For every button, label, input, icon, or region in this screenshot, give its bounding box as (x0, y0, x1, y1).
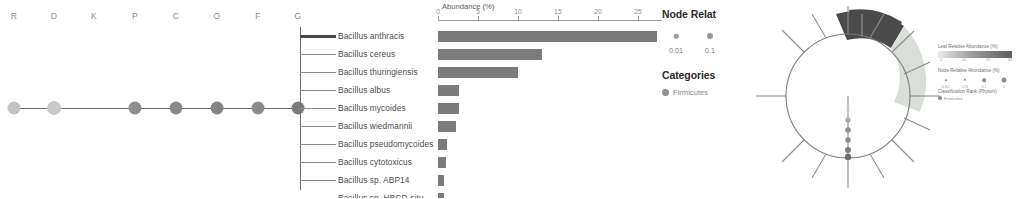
abundance-bar-panel: Abundance (%) 0 5 10 15 20 25 Bacillus a… (300, 0, 660, 198)
rank-legend-item[interactable]: Firmicutes (938, 96, 1022, 101)
node-size-label: 0.1 (982, 85, 987, 89)
rank-label-f: F (255, 9, 260, 23)
internal-node (845, 137, 851, 143)
abundance-bar[interactable] (438, 121, 456, 132)
rank-header-row: R D K P C O F G (0, 9, 300, 23)
leaf-row[interactable]: Bacillus albus (300, 81, 660, 99)
radial-branch (782, 30, 804, 52)
colorbar-tick-label: 10 (962, 58, 966, 62)
leaf-species-label: Bacillus cereus (338, 45, 395, 63)
categories-title: Categories (662, 69, 758, 81)
tree-node[interactable] (170, 102, 183, 115)
leaf-species-label: Bacillus sp. ABP14 (338, 171, 409, 189)
leaf-row[interactable]: Bacillus anthracis (300, 27, 660, 45)
leaf-branch (300, 144, 336, 145)
rank-label-k: K (91, 9, 97, 23)
abundance-bar[interactable] (438, 103, 459, 114)
internal-node-chain (845, 96, 851, 160)
abundance-bar[interactable] (438, 175, 444, 186)
axis-title: Abundance (%) (442, 2, 494, 11)
radial-branch (904, 118, 930, 130)
rank-label: Firmicutes (944, 96, 962, 101)
axis-tick-label: 10 (514, 8, 521, 15)
tree-node[interactable] (252, 102, 265, 115)
colorbar-tick-label: 0 (940, 58, 942, 62)
axis-tick-label: 0 (436, 8, 440, 15)
abundance-bar[interactable] (438, 31, 657, 42)
outer-arc-group (836, 9, 926, 112)
internal-node (846, 108, 850, 112)
tree-node[interactable] (211, 102, 224, 115)
leaf-abundance-legend-title: Leaf Relative Abundance (%) (938, 44, 1022, 49)
internal-node (845, 127, 851, 133)
node-size-dot (945, 79, 947, 81)
rank-swatch-icon (938, 96, 942, 100)
category-swatch-icon (662, 89, 669, 96)
node-size-label: 0.01 (669, 46, 683, 55)
node-relative-abundance-title: Node Relat (662, 8, 758, 20)
abundance-bar[interactable] (438, 67, 518, 78)
internal-node (845, 154, 851, 160)
leaf-branch (300, 90, 336, 91)
taxonomic-ladder-panel: R D K P C O F G (0, 0, 300, 198)
leaf-branch (300, 72, 336, 73)
abundance-bar[interactable] (438, 193, 444, 199)
axis-tick-label: 5 (476, 8, 480, 15)
node-size-dot (1002, 78, 1007, 83)
radial-branch (812, 14, 826, 38)
leaf-species-label: Bacillus thuringiensis (338, 63, 418, 81)
node-size-label: 1 (1003, 85, 1005, 89)
leaf-branch (300, 180, 336, 181)
abundance-bar[interactable] (438, 85, 459, 96)
leaf-row[interactable]: Bacillus wiedmannii (300, 117, 660, 135)
leaf-branch (300, 35, 336, 38)
leaf-species-label: Bacillus anthracis (338, 27, 404, 45)
leaf-branch (300, 54, 336, 55)
leaf-row[interactable]: Bacillus thuringiensis (300, 63, 660, 81)
tree-node[interactable] (47, 101, 61, 115)
leaf-species-label: Bacillus wiedmannii (338, 117, 412, 135)
node-size-label: 0.01 (962, 85, 969, 89)
node-size-dot (964, 79, 966, 81)
node-size-dot (674, 34, 679, 39)
colorbar-tick-label: 30 (1008, 58, 1012, 62)
right-legend-panel: Leaf Relative Abundance (%) 0 10 20 30 N… (938, 44, 1022, 101)
node-size-dot (707, 33, 713, 39)
dark-arc-main (836, 11, 904, 48)
leaf-row[interactable]: Bacillus cytotoxicus (300, 153, 660, 171)
category-label: Firmicutes (673, 88, 708, 97)
radial-branch (870, 154, 884, 178)
leaf-abundance-scale: 0 10 20 30 (938, 58, 1012, 64)
leaf-row[interactable]: Bacillus pseudomycoides (300, 135, 660, 153)
leaf-species-label: Bacillus sp. HBCD-sjtu (338, 189, 424, 198)
leaf-abundance-colorbar (938, 51, 1012, 58)
leaf-branch (300, 108, 336, 109)
rank-label-o: O (214, 9, 221, 23)
axis-tick-label: 15 (554, 8, 561, 15)
category-legend-item[interactable]: Firmicutes (662, 88, 758, 97)
tree-node[interactable] (8, 102, 21, 115)
leaf-branch (300, 126, 336, 127)
rank-label-c: C (173, 9, 179, 23)
node-abundance-legend-title: Node Relative Abundance (%) (938, 68, 1022, 73)
middle-legend-panel: Node Relat 0.01 0.1 Categories Firmicute… (662, 8, 758, 128)
abundance-bar[interactable] (438, 49, 542, 60)
leaf-row[interactable]: Bacillus sp. ABP14 (300, 171, 660, 189)
leaf-row[interactable]: Bacillus sp. HBCD-sjtu (300, 189, 660, 198)
rank-label-d: D (51, 9, 57, 23)
radial-branch (782, 140, 804, 162)
internal-node (845, 117, 850, 122)
leaf-row[interactable]: Bacillus cereus (300, 45, 660, 63)
abundance-bar[interactable] (438, 157, 446, 168)
node-size-scale: 0.01 0.1 (662, 29, 758, 59)
rank-label-p: P (132, 9, 138, 23)
node-size-label: 0.001 (942, 85, 951, 89)
node-size-label: 0.1 (705, 46, 715, 55)
leaf-row[interactable]: Bacillus mycoides (300, 99, 660, 117)
node-size-dot (982, 78, 986, 82)
axis-line (438, 20, 662, 21)
tree-node[interactable] (129, 102, 142, 115)
axis-tick-label: 25 (634, 8, 641, 15)
node-abundance-size-scale: 0.001 0.01 0.1 1 (938, 74, 1012, 85)
abundance-bar[interactable] (438, 139, 447, 150)
